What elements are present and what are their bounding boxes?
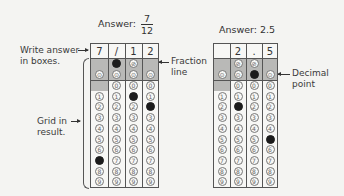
bubble-slash-col2[interactable]: ⊘ <box>234 59 243 68</box>
bubble-7-col3[interactable]: 7 <box>250 156 259 165</box>
bubble-1-col1[interactable]: 1 <box>95 92 104 101</box>
grid-in-arrow <box>71 121 80 122</box>
bubble-6-col1[interactable]: 6 <box>218 145 227 154</box>
bubble-5-col2[interactable]: 5 <box>112 135 121 144</box>
answer-box-3[interactable]: . <box>246 44 262 59</box>
bubble-7-col2[interactable]: 7 <box>234 156 243 165</box>
bubble-9-col1[interactable]: 9 <box>218 177 227 186</box>
bubble-1-col4[interactable]: 1 <box>146 92 155 101</box>
decimal-point-label: Decimal <box>292 68 329 78</box>
decimal-point-arrow <box>278 74 290 75</box>
bubble-7-col4[interactable]: 7 <box>146 156 155 165</box>
bubble-9-col3[interactable]: 9 <box>250 177 259 186</box>
bubble-7-col1[interactable]: 7 <box>95 156 104 165</box>
bubble-dot-col3[interactable]: ⊙ <box>129 70 138 79</box>
bubble-5-col4[interactable]: 5 <box>266 135 275 144</box>
bubble-0-col4[interactable]: 0 <box>146 81 155 90</box>
bubble-1-col2[interactable]: 1 <box>112 92 121 101</box>
bubble-1-col3[interactable]: 1 <box>129 92 138 101</box>
bubble-8-col3[interactable]: 8 <box>250 167 259 176</box>
bubble-2-col2[interactable]: 2 <box>234 102 243 111</box>
bubble-0-col2[interactable]: 0 <box>112 81 121 90</box>
answer-box-2[interactable]: / <box>108 44 125 59</box>
answer-box-1[interactable]: 7 <box>91 44 108 59</box>
bubble-0-col2[interactable]: 0 <box>234 81 243 90</box>
answer-box-4[interactable]: 2 <box>142 44 159 59</box>
bubble-3-col4[interactable]: 3 <box>266 113 275 122</box>
bubble-dot-col3[interactable]: ⊙ <box>250 70 259 79</box>
numerator: 7 <box>144 14 150 23</box>
bubble-2-col4[interactable]: 2 <box>266 102 275 111</box>
bubble-3-col2[interactable]: 3 <box>234 113 243 122</box>
bubble-dot-col2[interactable]: ⊙ <box>234 70 243 79</box>
bubble-5-col3[interactable]: 5 <box>129 135 138 144</box>
answer-boxes: 7 / 1 2 <box>91 44 158 59</box>
bubble-slash-col3[interactable]: ⊘ <box>129 59 138 68</box>
bubble-3-col1[interactable]: 3 <box>218 113 227 122</box>
answer-box-2[interactable]: 2 <box>230 44 246 59</box>
bubble-4-col3[interactable]: 4 <box>250 124 259 133</box>
bubble-dot-col2[interactable]: ⊙ <box>112 70 121 79</box>
grid-brace <box>83 58 89 189</box>
bubble-dot-col1[interactable]: ⊙ <box>218 70 227 79</box>
bubble-5-col1[interactable]: 5 <box>95 135 104 144</box>
bubble-0-col3[interactable]: 0 <box>250 81 259 90</box>
bubble-6-col3[interactable]: 6 <box>250 145 259 154</box>
bubble-1-col4[interactable]: 1 <box>266 92 275 101</box>
bubble-6-col2[interactable]: 6 <box>234 145 243 154</box>
answer-grid-fraction: 7 / 1 2 ⊘⊘⊙⊙⊙⊙00011112222333344445555666… <box>90 43 159 188</box>
fraction-line-label-2: line <box>171 67 187 77</box>
bubble-9-col4[interactable]: 9 <box>266 177 275 186</box>
bubble-9-col2[interactable]: 9 <box>234 177 243 186</box>
bubble-6-col4[interactable]: 6 <box>266 145 275 154</box>
answer-box-4[interactable]: 5 <box>262 44 278 59</box>
bubble-7-col4[interactable]: 7 <box>266 156 275 165</box>
bubble-1-col1[interactable]: 1 <box>218 92 227 101</box>
answer-grid-decimal: 2 . 5 ⊘⊘⊙⊙⊙⊙0001111222233334444555566667… <box>213 43 278 188</box>
bubble-5-col2[interactable]: 5 <box>234 135 243 144</box>
decimal-point-label-2: point <box>292 79 315 89</box>
bubble-7-col1[interactable]: 7 <box>218 156 227 165</box>
bubble-5-col4[interactable]: 5 <box>146 135 155 144</box>
bubble-0-col3[interactable]: 0 <box>129 81 138 90</box>
grid-in-label: Grid in <box>37 116 67 126</box>
left-answer-title: Answer: 7 12 <box>98 14 153 35</box>
write-answer-label-2: in boxes. <box>20 56 60 66</box>
bubble-3-col3[interactable]: 3 <box>250 113 259 122</box>
bubble-0-col4[interactable]: 0 <box>266 81 275 90</box>
bubble-dot-col4[interactable]: ⊙ <box>266 70 275 79</box>
bubble-4-col1[interactable]: 4 <box>95 124 104 133</box>
answer-box-3[interactable]: 1 <box>125 44 142 59</box>
bubble-8-col2[interactable]: 8 <box>112 167 121 176</box>
fraction-line-arrow <box>159 62 169 63</box>
bubble-7-col3[interactable]: 7 <box>129 156 138 165</box>
write-answer-label: Write answer <box>20 45 79 55</box>
bubble-8-col1[interactable]: 8 <box>218 167 227 176</box>
bubble-slash-col2[interactable]: ⊘ <box>112 59 121 68</box>
bubble-8-col3[interactable]: 8 <box>129 167 138 176</box>
bubble-1-col2[interactable]: 1 <box>234 92 243 101</box>
bubble-8-col1[interactable]: 8 <box>95 167 104 176</box>
bubble-1-col3[interactable]: 1 <box>250 92 259 101</box>
bubble-4-col4[interactable]: 4 <box>146 124 155 133</box>
bubble-4-col2[interactable]: 4 <box>234 124 243 133</box>
answer-label: Answer: <box>98 18 136 29</box>
bubble-8-col4[interactable]: 8 <box>146 167 155 176</box>
bubble-dot-col1[interactable]: ⊙ <box>95 70 104 79</box>
bubble-4-col2[interactable]: 4 <box>112 124 121 133</box>
bubble-slash-col3[interactable]: ⊘ <box>250 59 259 68</box>
bubble-8-col2[interactable]: 8 <box>234 167 243 176</box>
write-answer-arrow <box>78 50 88 51</box>
bubble-5-col1[interactable]: 5 <box>218 135 227 144</box>
bubble-2-col1[interactable]: 2 <box>218 102 227 111</box>
bubble-4-col3[interactable]: 4 <box>129 124 138 133</box>
bubble-dot-col4[interactable]: ⊙ <box>146 70 155 79</box>
answer-boxes: 2 . 5 <box>214 44 277 59</box>
bubble-4-col4[interactable]: 4 <box>266 124 275 133</box>
bubble-7-col2[interactable]: 7 <box>112 156 121 165</box>
fraction-7-12: 7 12 <box>141 14 153 35</box>
bubble-2-col3[interactable]: 2 <box>250 102 259 111</box>
bubble-5-col3[interactable]: 5 <box>250 135 259 144</box>
bubble-4-col1[interactable]: 4 <box>218 124 227 133</box>
bubble-8-col4[interactable]: 8 <box>266 167 275 176</box>
